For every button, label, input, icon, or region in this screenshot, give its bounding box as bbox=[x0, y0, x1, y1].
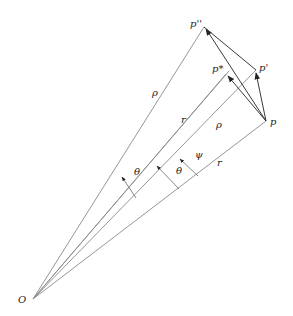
vector-p-to-p-star bbox=[228, 76, 266, 121]
label-p-star: p* bbox=[212, 63, 223, 74]
psi-arc bbox=[180, 159, 198, 176]
label-p-prime: p' bbox=[259, 62, 268, 73]
label-rho-outer: ρ bbox=[151, 87, 158, 98]
label-r-bottom: r bbox=[217, 157, 223, 168]
label-p: p bbox=[270, 116, 277, 127]
label-r-mid: r bbox=[181, 114, 187, 125]
ray-o-to-p-star bbox=[33, 74, 226, 299]
vector-rotation-diagram: O p p' p* p'' ρ r ρ r θ θ ψ bbox=[0, 0, 293, 316]
label-psi: ψ bbox=[195, 149, 203, 160]
theta-arc-left bbox=[122, 177, 136, 198]
label-theta-left: θ bbox=[134, 166, 140, 177]
label-o: O bbox=[18, 294, 26, 305]
ray-o-to-p-prime bbox=[33, 70, 256, 299]
ray-o-to-p bbox=[33, 121, 266, 299]
label-theta-right: θ bbox=[176, 165, 182, 176]
label-rho-inner: ρ bbox=[215, 119, 222, 130]
label-p-double-prime: p'' bbox=[190, 18, 202, 29]
ray-o-to-p-double-prime bbox=[33, 27, 204, 299]
vector-p-to-p-double-prime bbox=[206, 29, 266, 121]
